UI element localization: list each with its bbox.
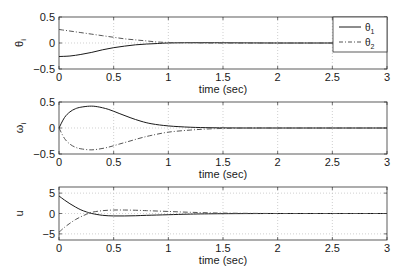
x-tick-label: 1	[165, 71, 171, 83]
x-axis-label: time (sec)	[199, 254, 247, 266]
y-tick-label: 0.5	[40, 11, 55, 23]
y-tick-label: −0.5	[33, 63, 55, 75]
x-tick-label: 1.5	[215, 71, 230, 83]
x-tick-label: 3	[384, 71, 390, 83]
x-tick-label: 2.5	[325, 242, 340, 254]
x-tick-label: 2.5	[325, 156, 340, 168]
x-tick-label: 0.5	[106, 71, 121, 83]
y-tick-label: 0	[49, 122, 55, 134]
x-tick-label: 2	[275, 242, 281, 254]
subplot-3: 00.511.522.53−505time (sec)u	[13, 187, 390, 266]
subplot-2: 00.511.522.53−0.500.5time (sec)ωi	[13, 96, 390, 180]
x-tick-label: 2	[275, 156, 281, 168]
x-tick-label: 0	[56, 71, 62, 83]
x-tick-label: 0.5	[106, 156, 121, 168]
figure: 00.511.522.53−0.500.5time (sec)θiθ1θ200.…	[0, 0, 409, 276]
y-tick-label: −5	[42, 228, 55, 240]
y-axis-label: u	[13, 210, 25, 216]
x-tick-label: 2.5	[325, 71, 340, 83]
x-tick-label: 1.5	[215, 242, 230, 254]
y-tick-label: −0.5	[33, 148, 55, 160]
x-tick-label: 2	[275, 71, 281, 83]
y-tick-label: 5	[49, 187, 55, 199]
y-tick-label: 0.5	[40, 96, 55, 108]
x-tick-label: 0	[56, 242, 62, 254]
x-tick-label: 3	[384, 242, 390, 254]
x-tick-label: 0	[56, 156, 62, 168]
y-tick-label: 0	[49, 37, 55, 49]
legend: θ1θ2	[333, 17, 387, 52]
x-tick-label: 1	[165, 242, 171, 254]
x-tick-label: 1	[165, 156, 171, 168]
y-axis-label: θi	[13, 39, 28, 47]
x-axis-label: time (sec)	[199, 168, 247, 180]
y-axis-label: ωi	[13, 123, 28, 134]
x-tick-label: 3	[384, 156, 390, 168]
x-tick-label: 0.5	[106, 242, 121, 254]
x-axis-label: time (sec)	[199, 83, 247, 95]
x-tick-label: 1.5	[215, 156, 230, 168]
subplot-1: 00.511.522.53−0.500.5time (sec)θiθ1θ2	[13, 11, 390, 95]
y-tick-label: 0	[49, 208, 55, 220]
